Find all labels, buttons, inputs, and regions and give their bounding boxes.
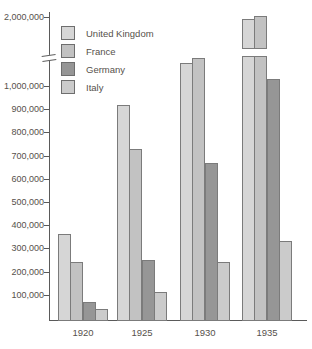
y-tick-mark	[44, 295, 50, 296]
bar-united-kingdom-1930	[180, 63, 193, 321]
y-tick-label: 400,000	[0, 220, 44, 230]
y-tick-mark	[44, 179, 50, 180]
bar-france-1930	[192, 58, 205, 321]
y-tick-mark	[44, 86, 50, 87]
y-tick-mark	[44, 202, 50, 203]
bar-germany-1925	[142, 260, 155, 321]
bar-france-1925	[129, 149, 142, 321]
bar-germany-1920	[83, 302, 96, 321]
bar-united-kingdom-1935-upper	[242, 19, 255, 49]
y-tick-mark	[44, 156, 50, 157]
bar-italy-1935	[279, 241, 292, 321]
x-tick-label-1920: 1920	[58, 327, 108, 338]
legend-swatch-italy	[61, 80, 75, 94]
y-tick-label: 200,000	[0, 267, 44, 277]
bar-france-1920	[70, 262, 83, 321]
bar-united-kingdom-1920	[58, 234, 71, 321]
y-tick-label: 300,000	[0, 243, 44, 253]
grouped-bar-chart: 2,000,0001,000,000900,000800,000700,0006…	[0, 0, 312, 349]
legend-swatch-united-kingdom	[61, 26, 75, 40]
x-tick-label-1935: 1935	[242, 327, 292, 338]
legend-item-united-kingdom: United Kingdom	[61, 24, 154, 42]
axis-break-icon	[42, 54, 57, 62]
y-tick-label: 100,000	[0, 290, 44, 300]
y-tick-mark	[44, 272, 50, 273]
bar-italy-1930	[217, 262, 230, 321]
bar-germany-1935	[267, 79, 280, 321]
bar-germany-1930	[205, 163, 218, 321]
y-tick-mark	[44, 17, 50, 18]
legend: United Kingdom France Germany Italy	[61, 24, 154, 96]
bar-france-1935-upper	[254, 16, 267, 49]
legend-swatch-germany	[61, 62, 75, 76]
bar-italy-1920	[95, 309, 108, 321]
legend-item-germany: Germany	[61, 60, 154, 78]
legend-label: Italy	[86, 82, 103, 93]
y-tick-mark	[44, 109, 50, 110]
x-tick-label-1925: 1925	[117, 327, 167, 338]
y-tick-mark	[44, 248, 50, 249]
y-tick-label: 700,000	[0, 151, 44, 161]
legend-label: France	[86, 46, 116, 57]
y-tick-mark	[44, 225, 50, 226]
bar-italy-1925	[154, 292, 167, 321]
y-tick-label: 900,000	[0, 104, 44, 114]
y-tick-label: 800,000	[0, 127, 44, 137]
y-tick-label: 500,000	[0, 197, 44, 207]
legend-label: Germany	[86, 64, 125, 75]
bar-united-kingdom-1925	[117, 105, 130, 321]
x-tick-label-1930: 1930	[180, 327, 230, 338]
y-tick-label: 1,000,000	[0, 81, 44, 91]
bar-france-1935-lower	[254, 56, 267, 321]
bar-united-kingdom-1935-lower	[242, 56, 255, 321]
legend-label: United Kingdom	[86, 28, 154, 39]
legend-swatch-france	[61, 44, 75, 58]
y-tick-mark	[44, 132, 50, 133]
legend-item-italy: Italy	[61, 78, 154, 96]
y-tick-label: 2,000,000	[0, 12, 44, 22]
legend-item-france: France	[61, 42, 154, 60]
y-tick-label: 600,000	[0, 174, 44, 184]
